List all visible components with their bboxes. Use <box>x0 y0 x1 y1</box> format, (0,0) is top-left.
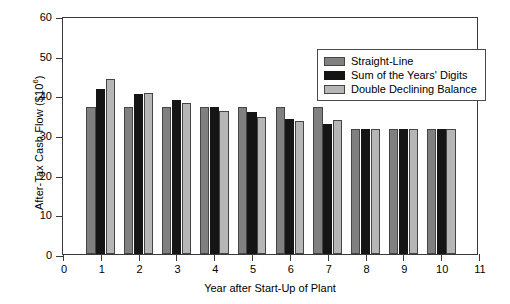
y-axis-tick-label: 20 <box>40 170 52 182</box>
bar <box>238 107 247 254</box>
y-axis-tick-label: 0 <box>46 249 52 261</box>
bar <box>389 129 398 254</box>
bar <box>257 117 266 254</box>
legend-label-sum-of-years-digits: Sum of the Years' Digits <box>351 69 467 81</box>
bar <box>134 94 143 254</box>
bar <box>106 79 115 254</box>
chart-figure: After-Tax Cash Flow ($106) 0102030405060… <box>0 0 510 304</box>
y-axis-title-close: ) <box>33 76 45 80</box>
x-axis-tick-label: 0 <box>61 263 67 275</box>
y-axis-tick: 50 <box>56 58 63 59</box>
bar <box>144 93 153 254</box>
x-axis-tick: 5 <box>252 254 253 261</box>
x-axis-tick: 9 <box>403 254 404 261</box>
legend-item: Straight-Line <box>324 54 477 68</box>
bar <box>276 107 285 254</box>
bar <box>437 129 446 254</box>
bar <box>219 111 228 254</box>
x-axis-tick: 8 <box>366 254 367 261</box>
bar <box>361 129 370 254</box>
bar <box>182 103 191 254</box>
bar <box>323 124 332 254</box>
x-axis-tick-label: 9 <box>401 263 407 275</box>
x-axis-tick: 6 <box>290 254 291 261</box>
x-axis-tick-label: 4 <box>212 263 218 275</box>
bar <box>162 107 171 254</box>
y-axis-tick-label: 10 <box>40 209 52 221</box>
x-axis-tick: 1 <box>101 254 102 261</box>
y-axis-tick: 60 <box>56 18 63 19</box>
bar <box>371 129 380 254</box>
bar <box>446 129 455 254</box>
bar <box>313 107 322 254</box>
x-axis-tick: 3 <box>176 254 177 261</box>
y-axis-tick: 20 <box>56 177 63 178</box>
legend-item: Sum of the Years' Digits <box>324 68 477 82</box>
y-axis-tick-label: 40 <box>40 90 52 102</box>
y-axis-tick-label: 30 <box>40 130 52 142</box>
x-axis-tick: 11 <box>479 254 480 261</box>
x-axis-tick-label: 8 <box>363 263 369 275</box>
x-axis-tick-label: 10 <box>436 263 448 275</box>
bar <box>427 129 436 254</box>
bar <box>200 107 209 254</box>
y-axis-tick-label: 60 <box>40 11 52 23</box>
y-axis-title-exponent: 6 <box>31 79 40 83</box>
x-axis-tick: 0 <box>63 254 64 261</box>
y-axis-tick: 10 <box>56 216 63 217</box>
x-axis-tick-label: 2 <box>137 263 143 275</box>
x-axis-title: Year after Start-Up of Plant <box>62 282 478 294</box>
x-axis-tick: 2 <box>139 254 140 261</box>
bar <box>124 107 133 254</box>
x-axis-tick-label: 7 <box>326 263 332 275</box>
bar <box>86 107 95 254</box>
bar <box>399 129 408 254</box>
x-axis-tick-label: 5 <box>250 263 256 275</box>
legend-swatch-straight-line <box>324 57 345 66</box>
bar <box>210 107 219 254</box>
bar <box>409 129 418 254</box>
y-axis-title-base: After-Tax Cash Flow ($10 <box>33 84 45 211</box>
y-axis-tick: 40 <box>56 97 63 98</box>
legend-swatch-double-declining-balance <box>324 85 345 94</box>
bar <box>172 100 181 254</box>
legend-item: Double Declining Balance <box>324 82 477 96</box>
x-axis-tick: 10 <box>441 254 442 261</box>
y-axis-tick: 0 <box>56 256 63 257</box>
legend-swatch-sum-of-years-digits <box>324 71 345 80</box>
x-axis-tick-label: 3 <box>174 263 180 275</box>
y-axis-tick: 30 <box>56 137 63 138</box>
bar <box>333 120 342 254</box>
plot-area: 0102030405060 01234567891011 Straight-Li… <box>62 17 478 255</box>
chart-legend: Straight-Line Sum of the Years' Digits D… <box>317 49 486 101</box>
bar <box>295 121 304 254</box>
x-axis-tick: 4 <box>214 254 215 261</box>
x-axis-tick-label: 1 <box>99 263 105 275</box>
bar <box>351 129 360 254</box>
x-axis-tick-label: 11 <box>474 263 485 275</box>
x-axis-tick-label: 6 <box>288 263 294 275</box>
bar <box>285 119 294 254</box>
bar <box>247 112 256 254</box>
legend-label-straight-line: Straight-Line <box>351 55 413 67</box>
y-axis-tick-label: 50 <box>40 51 52 63</box>
bar <box>96 89 105 254</box>
legend-label-double-declining-balance: Double Declining Balance <box>351 83 477 95</box>
x-axis-tick: 7 <box>328 254 329 261</box>
